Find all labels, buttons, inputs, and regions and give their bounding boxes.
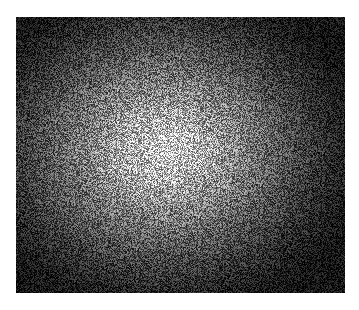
noise-image <box>16 17 345 293</box>
noise-canvas <box>16 17 345 293</box>
